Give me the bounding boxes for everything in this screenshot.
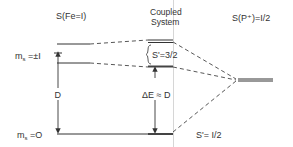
correlation-dash-fe-middle [90,63,148,67]
right-column-title: S(P⁺)=I/2 [232,13,270,23]
center-column-title-line2: System [151,17,179,27]
left-column-title: S(Fe=I) [56,11,86,21]
s-prime-3-2-label: S'=3/2 [152,50,178,60]
correlation-dash-p-lower [173,81,236,132]
correlation-dash-p-upper [173,42,236,79]
correlation-dash-p-middle [173,67,236,80]
energy-level-diagram: S(Fe=I) Coupled System S(P⁺)=I/2 ms =±I … [0,0,293,147]
d-splitting-label: D [55,90,62,100]
ms-0-label: ms =O [17,130,42,141]
s-prime-1-2-label: S'= I/2 [196,130,221,140]
center-column-title-line1: Coupled [150,7,182,17]
ms-pm1-label: ms =±I [15,51,41,62]
correlation-dash-fe-upper [90,40,148,44]
delta-e-label: ΔE ≈ D [142,90,171,100]
s-prime-3-2-brace [146,45,151,64]
